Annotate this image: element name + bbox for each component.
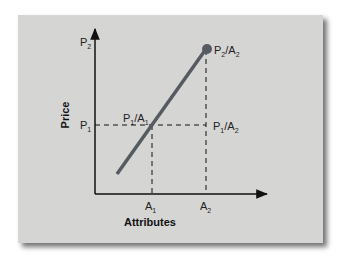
y-tick-p2: P2 xyxy=(80,36,91,50)
label-p1-a1: P1/A1 xyxy=(123,112,149,126)
x-tick-a2: A2 xyxy=(200,200,211,214)
label-p1-a2: P1/A2 xyxy=(213,120,239,134)
y-axis-title: Price xyxy=(59,102,71,129)
label-p2-a2: P2/A2 xyxy=(214,44,240,58)
x-tick-a1: A1 xyxy=(145,200,156,214)
p2-a2-point xyxy=(202,44,212,54)
y-tick-p1: P1 xyxy=(80,119,91,133)
x-axis-title: Attributes xyxy=(124,216,176,228)
price-attribute-diagram: P2 P1 A1 A2 P1/A1 P1/A2 P2/A2 Attributes… xyxy=(0,0,347,265)
price-attribute-line xyxy=(117,49,206,174)
